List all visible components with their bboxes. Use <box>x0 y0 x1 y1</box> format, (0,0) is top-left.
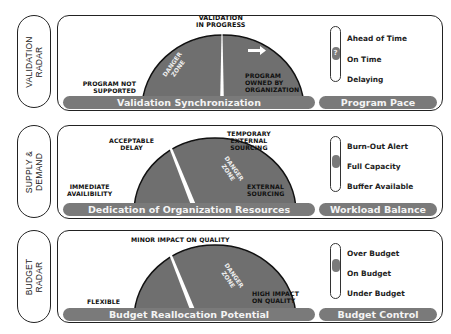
budget-radar-side-label: BUDGET RADAR <box>17 230 51 323</box>
gauge-label-top-left: ACCEPTABLE DELAY <box>109 137 154 151</box>
budget-gauge <box>130 239 300 319</box>
resources-gauge <box>130 132 300 212</box>
gauge-label-right: EXTERNAL SOURCING <box>247 183 284 197</box>
gauge-label-right: HIGH IMPACT ON QUALITY <box>252 290 299 304</box>
gauge-label-top-right: TEMPORARY EXTERNAL SOURCING <box>227 130 271 151</box>
gauge-label-top: VALIDATION IN PROGRESS <box>196 15 246 29</box>
validation-radar-panel: DANGER ZONE VALIDATION IN PROGRESS PROGR… <box>57 15 443 111</box>
validation-radar-row: VALIDATION RADAR DANGER ZONE VALIDATION … <box>0 0 451 115</box>
supply-demand-row: SUPPLY & DEMAND DANGER ZONE ACCEPTABLE D… <box>0 115 451 223</box>
supply-demand-side-label: SUPPLY & DEMAND <box>17 125 51 218</box>
option-burn-out-alert[interactable]: Burn-Out Alert <box>347 142 408 151</box>
program-pace-slider[interactable]: ? <box>330 26 341 82</box>
program-pace-bar: Program Pace <box>319 96 437 109</box>
budget-control-bar: Budget Control <box>319 308 437 321</box>
side-label-text: SUPPLY & DEMAND <box>24 150 44 192</box>
slider-knob[interactable] <box>332 155 340 168</box>
budget-reallocation-bar: Budget Reallocation Potential <box>63 308 315 321</box>
option-delaying[interactable]: Delaying <box>347 75 383 84</box>
gauge-label-left: FLEXIBLE <box>87 298 120 305</box>
option-ahead-of-time[interactable]: Ahead of Time <box>347 34 407 43</box>
gauge-label-top: MINOR IMPACT ON QUALITY <box>131 236 230 243</box>
option-under-budget[interactable]: Under Budget <box>347 289 405 298</box>
validation-synchronization-bar: Validation Synchronization <box>63 96 315 109</box>
option-buffer-available[interactable]: Buffer Available <box>347 182 413 191</box>
workload-balance-slider[interactable] <box>330 136 341 192</box>
slider-knob[interactable] <box>332 259 340 272</box>
side-label-text: VALIDATION RADAR <box>24 36 44 87</box>
gauge-label-left: PROGRAM NOT SUPPORTED <box>61 80 136 94</box>
dedication-resources-bar: Dedication of Organization Resources <box>63 203 315 216</box>
workload-balance-bar: Workload Balance <box>319 203 437 216</box>
supply-demand-panel: DANGER ZONE ACCEPTABLE DELAY TEMPORARY E… <box>57 125 443 219</box>
side-label-text: BUDGET RADAR <box>24 258 44 295</box>
budget-radar-panel: DANGER ZONE MINOR IMPACT ON QUALITY FLEX… <box>57 230 443 323</box>
option-on-budget[interactable]: On Budget <box>347 269 391 278</box>
validation-radar-side-label: VALIDATION RADAR <box>17 15 51 108</box>
gauge-label-right: PROGRAM OWNED BY ORGANIZATION <box>245 72 299 93</box>
option-on-time[interactable]: On Time <box>347 55 381 64</box>
gauge-label-left: IMMEDIATE AVAILIBILITY <box>67 183 112 197</box>
budget-radar-row: BUDGET RADAR DANGER ZONE MINOR IMPACT ON… <box>0 223 451 334</box>
option-over-budget[interactable]: Over Budget <box>347 249 399 258</box>
option-full-capacity[interactable]: Full Capacity <box>347 162 401 171</box>
budget-control-slider[interactable] <box>330 243 341 299</box>
slider-knob[interactable]: ? <box>332 47 340 60</box>
